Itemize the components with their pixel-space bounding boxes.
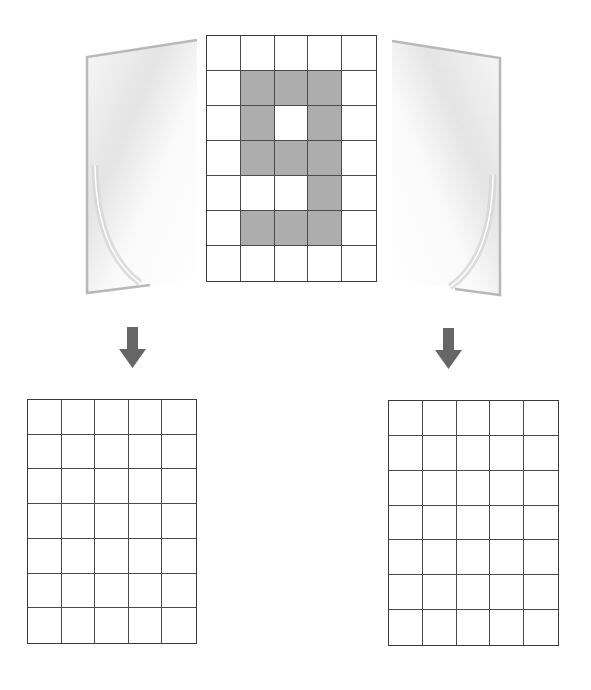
grid-cell[interactable] [162,539,196,574]
grid-cell[interactable] [490,506,524,541]
grid-cell[interactable] [95,400,129,435]
grid-cell[interactable] [524,540,558,575]
grid-cell[interactable] [129,435,163,470]
grid-cell[interactable] [457,540,491,575]
answer-grid-right[interactable] [388,400,559,646]
grid-cell[interactable] [95,504,129,539]
grid-cell[interactable] [62,574,96,609]
grid-cell[interactable] [457,610,491,645]
grid-cell[interactable] [490,575,524,610]
grid-cell[interactable] [95,469,129,504]
grid-cell[interactable] [423,575,457,610]
grid-cell[interactable] [28,400,62,435]
center-pattern-grid [206,35,377,282]
grid-cell[interactable] [28,608,62,643]
grid-cell[interactable] [524,506,558,541]
grid-cell [207,246,241,281]
grid-cell [241,176,275,211]
grid-cell[interactable] [389,471,423,506]
grid-cell[interactable] [423,610,457,645]
grid-cell [342,106,376,141]
grid-cell[interactable] [423,506,457,541]
grid-cell[interactable] [162,400,196,435]
grid-cell[interactable] [457,401,491,436]
grid-cell[interactable] [389,540,423,575]
grid-cell[interactable] [62,400,96,435]
grid-cell [207,176,241,211]
grid-cell[interactable] [524,401,558,436]
grid-cell[interactable] [524,610,558,645]
grid-cell[interactable] [28,574,62,609]
grid-cell[interactable] [490,436,524,471]
grid-cell[interactable] [524,436,558,471]
grid-cell [207,141,241,176]
grid-cell[interactable] [423,540,457,575]
grid-cell[interactable] [389,436,423,471]
grid-cell [241,246,275,281]
grid-cell[interactable] [28,504,62,539]
grid-cell[interactable] [62,608,96,643]
grid-cell [342,36,376,71]
grid-cell [342,71,376,106]
grid-cell[interactable] [423,436,457,471]
grid-cell[interactable] [423,401,457,436]
grid-cell[interactable] [28,435,62,470]
grid-cell[interactable] [524,575,558,610]
grid-cell[interactable] [129,539,163,574]
grid-cell-filled [275,211,309,246]
grid-cell[interactable] [162,435,196,470]
grid-cell[interactable] [62,469,96,504]
grid-cell[interactable] [28,469,62,504]
grid-cell-filled [241,71,275,106]
grid-cell-filled [308,71,342,106]
grid-cell [275,106,309,141]
grid-cell[interactable] [129,400,163,435]
grid-cell[interactable] [129,574,163,609]
grid-cell[interactable] [95,435,129,470]
grid-cell-filled [241,211,275,246]
grid-cell[interactable] [162,504,196,539]
grid-cell [342,211,376,246]
grid-cell[interactable] [423,471,457,506]
grid-cell[interactable] [457,436,491,471]
grid-cell[interactable] [389,401,423,436]
grid-cell-filled [241,141,275,176]
right-flap-shape [392,41,500,295]
grid-cell[interactable] [95,608,129,643]
grid-cell[interactable] [162,608,196,643]
grid-cell[interactable] [28,539,62,574]
grid-cell[interactable] [162,574,196,609]
grid-cell-filled [308,106,342,141]
grid-cell [308,246,342,281]
grid-cell[interactable] [95,574,129,609]
grid-cell [241,36,275,71]
grid-cell[interactable] [62,435,96,470]
grid-cell [275,36,309,71]
answer-grid-left[interactable] [27,399,197,644]
grid-cell[interactable] [129,504,163,539]
grid-cell-filled [308,176,342,211]
grid-cell[interactable] [162,469,196,504]
grid-cell[interactable] [490,540,524,575]
grid-cell [207,211,241,246]
grid-cell[interactable] [95,539,129,574]
grid-cell [275,176,309,211]
grid-cell[interactable] [389,506,423,541]
grid-cell[interactable] [389,575,423,610]
arrow-down-icon [435,328,463,370]
grid-cell[interactable] [490,401,524,436]
grid-cell[interactable] [490,610,524,645]
grid-cell [342,176,376,211]
grid-cell[interactable] [457,506,491,541]
grid-cell[interactable] [389,610,423,645]
grid-cell[interactable] [490,471,524,506]
grid-cell[interactable] [129,608,163,643]
grid-cell[interactable] [62,504,96,539]
grid-cell[interactable] [457,471,491,506]
grid-cell[interactable] [129,469,163,504]
grid-cell [207,36,241,71]
grid-cell[interactable] [62,539,96,574]
grid-cell[interactable] [524,471,558,506]
grid-cell[interactable] [457,575,491,610]
grid-cell [342,141,376,176]
